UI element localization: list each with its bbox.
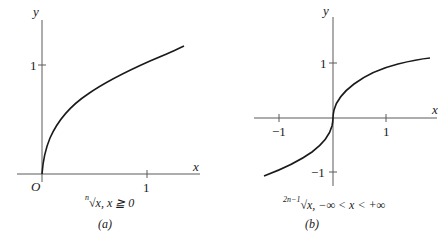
panel-b-y-tick-label-neg1: −1 [311, 166, 325, 179]
panel-b-y-tick-label-1: 1 [320, 57, 327, 70]
panel-a-root-index: n [85, 193, 89, 202]
panel-a-radical-sign: √ [89, 196, 96, 210]
panel-a-root-curve [42, 46, 184, 174]
panel-a-label: (a) [98, 218, 112, 230]
panel-b-radical-sign: √ [300, 198, 307, 212]
panel-a-y-tick-label-1: 1 [30, 59, 37, 72]
panel-b-root-index: 2n−1 [283, 195, 300, 204]
panel-a-y-axis-label: y [33, 5, 39, 18]
panel-a-caption: n√x, x ≧ 0 [85, 197, 134, 209]
panel-a-caption-text: x, x ≧ 0 [96, 196, 135, 210]
panel-a-x-tick-label-1: 1 [143, 181, 150, 194]
panel-a-x-axis-label: x [193, 160, 199, 173]
panel-b-x-tick-label-neg1: −1 [272, 125, 286, 138]
panel-b-caption: 2n−1√x, −∞ < x < +∞ [283, 199, 385, 211]
panel-b-axes [254, 17, 437, 186]
panel-b-x-axis-label: x [432, 103, 438, 116]
panel-b-caption-text: x, −∞ < x < +∞ [307, 198, 385, 212]
panel-b-label: (b) [305, 218, 319, 230]
panel-b-odd-root-curve [264, 58, 430, 176]
panel-b-x-tick-label-1: 1 [383, 125, 390, 138]
panel-a-origin-label: O [31, 180, 40, 193]
panel-b-y-axis-label: y [323, 4, 329, 17]
